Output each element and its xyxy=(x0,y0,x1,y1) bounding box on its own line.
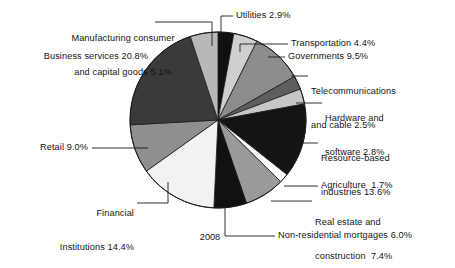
chart-caption-year: 2008 xyxy=(188,232,232,242)
label-real-estate-line1: Real estate and xyxy=(315,217,392,228)
label-utilities: Utilities 2.9% xyxy=(236,10,290,21)
label-financial: Financial Institutions 14.4% xyxy=(20,186,134,268)
label-manufacturing-line1: Manufacturing consumer xyxy=(48,33,198,44)
label-hardware-line1: Hardware and xyxy=(325,113,384,124)
label-transportation: Transportation 4.4% xyxy=(291,38,375,49)
label-financial-line2: Institutions 14.4% xyxy=(20,242,134,253)
leader-line-utilities xyxy=(221,16,233,34)
label-manufacturing-line2: and capital goods 5.1% xyxy=(48,67,198,78)
leader-line-non-residential xyxy=(225,208,275,236)
label-non-residential: Non-residential mortgages 6.0% xyxy=(278,230,412,241)
label-financial-line1: Financial xyxy=(20,208,134,219)
label-real-estate-line2: construction 7.4% xyxy=(315,251,392,262)
label-business-services: Business services 20.8% xyxy=(8,51,148,62)
label-retail: Retail 9.0% xyxy=(20,142,88,153)
label-agriculture: Agriculture 1.7% xyxy=(321,180,393,191)
pie-chart-figure: Manufacturing consumer and capital goods… xyxy=(0,0,455,268)
label-resource-line1: Resource-based xyxy=(321,153,390,164)
label-governments: Governments 9.5% xyxy=(288,51,368,62)
